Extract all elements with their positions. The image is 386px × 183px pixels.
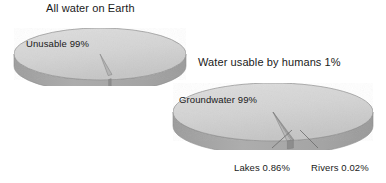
chart-title-all-water-on-earth: All water on Earth <box>46 2 135 14</box>
pie-chart-all-water-on-earth <box>10 24 190 86</box>
leader-line-rivers <box>300 130 318 148</box>
pie-callout-label-rivers: Rivers 0.02% <box>311 162 369 173</box>
callout-leader-lines <box>220 128 340 164</box>
leader-line-lakes <box>272 130 292 148</box>
pie-callout-label-lakes: Lakes 0.86% <box>234 162 290 173</box>
figure-canvas: All water on Earth <box>0 0 386 183</box>
pie-slice-label-unusable: Unusable 99% <box>26 38 89 49</box>
chart-title-water-usable-by-humans: Water usable by humans 1% <box>198 56 341 68</box>
pie-slice-label-groundwater: Groundwater 99% <box>179 94 257 105</box>
